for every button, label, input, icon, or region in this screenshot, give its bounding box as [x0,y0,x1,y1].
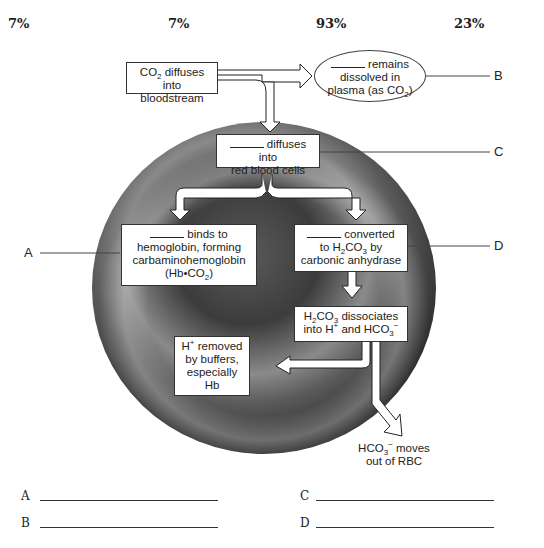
text: HCO [358,442,384,454]
label-b: B [494,68,503,83]
text: plasma (as CO [328,84,405,96]
answer-label-b: B [21,516,30,530]
subscript: 3 [389,329,393,338]
text: (Hb•CO [165,267,205,279]
answer-input-d[interactable] [316,527,494,528]
text: removed [195,340,243,352]
text: diffuses into [259,138,307,163]
diffuses-into-rbc-box: diffuses into red blood cells [216,134,320,168]
hco3-moves-text: HCO3− moves out of RBC [344,442,444,468]
text: H [182,340,190,352]
text: hemoglobin, forming [137,241,241,253]
text: CO [345,241,362,253]
converted-box: converted to H2CO3 by carbonic anhydrase [294,224,408,272]
answer-input-c[interactable] [316,500,494,501]
blank-b[interactable] [331,58,365,68]
blank-a[interactable] [150,228,184,238]
text: dissociates [338,310,398,322]
answer-input-b[interactable] [40,527,218,528]
text: diffuses [162,66,205,78]
text: out of RBC [366,455,422,467]
text: and HCO [338,323,389,335]
text: binds to [187,228,227,240]
text: CO [316,310,333,322]
label-d: D [494,238,503,253]
label-a: A [24,245,33,260]
binds-hemoglobin-box: binds to hemoglobin, forming carbaminohe… [121,224,257,286]
text: to H [320,241,341,253]
text: carbonic anhydrase [301,254,401,266]
text: moves [393,442,430,454]
text: especially [187,366,238,378]
text: remains [368,58,409,70]
arrow-to-plasma [215,64,312,88]
text: by buffers, [185,353,239,365]
text: into H [304,323,334,335]
text: into bloodstream [140,79,203,104]
text: ) [209,267,213,279]
diagram-canvas [0,0,544,548]
dissociates-box: H2CO3 dissociates into H+ and HCO3− [294,306,408,342]
superscript: − [394,321,399,330]
text: red blood cells [231,164,305,176]
text: H [304,310,312,322]
blank-d[interactable] [307,228,341,238]
answer-label-d: D [300,516,310,530]
text: Hb [205,379,220,391]
text: dissolved in [340,71,400,83]
h-removed-box: H+ removed by buffers, especially Hb [174,336,250,396]
text: carbaminohemoglobin [132,254,245,266]
co2-diffuses-box: CO2 diffuses into bloodstream [126,62,218,94]
label-c: C [494,144,503,159]
blank-c[interactable] [230,138,264,148]
text: ) [409,84,413,96]
text: by [367,241,382,253]
answer-label-a: A [21,489,30,503]
text: converted [344,228,395,240]
answer-input-a[interactable] [40,500,218,501]
answer-label-c: C [300,489,309,503]
text: CO [140,66,157,78]
plasma-ellipse: remains dissolved in plasma (as CO2) [314,50,426,102]
